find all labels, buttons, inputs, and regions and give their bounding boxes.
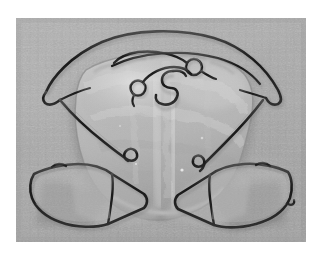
photo-grain [16,18,306,242]
figure-root [0,0,320,256]
photograph [16,18,306,242]
appliance-photo-canvas [16,18,306,242]
